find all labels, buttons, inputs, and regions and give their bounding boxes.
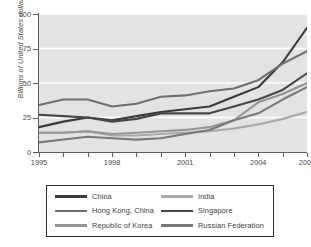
x-tick-label: 2004 xyxy=(250,158,266,167)
legend-color-swatch xyxy=(55,210,87,213)
legend-label: India xyxy=(198,192,215,201)
legend-color-swatch xyxy=(55,195,87,198)
legend-item[interactable]: Singapore xyxy=(161,204,267,219)
legend-label: Singapore xyxy=(198,206,233,215)
x-tick-mark xyxy=(234,153,235,157)
y-tick-label: 25 xyxy=(3,113,31,122)
legend-item[interactable]: Russian Federation xyxy=(161,218,267,233)
plot-area xyxy=(39,14,307,152)
y-tick-label: 75 xyxy=(3,44,31,53)
x-tick-mark xyxy=(39,153,40,157)
x-tick-mark xyxy=(185,153,186,157)
x-tick-label: 1995 xyxy=(31,158,47,167)
line-chart: Billions of United States dollars 025507… xyxy=(0,0,311,178)
legend-item[interactable]: China xyxy=(55,189,161,204)
series-canvas xyxy=(39,14,307,152)
x-tick-mark xyxy=(63,153,64,157)
x-tick-mark xyxy=(283,153,284,157)
y-tick-label: 100 xyxy=(3,10,31,19)
legend: ChinaIndiaHong Kong, ChinaSingaporeRepub… xyxy=(46,185,274,237)
x-tick-mark xyxy=(112,153,113,157)
x-tick-mark xyxy=(136,153,137,157)
series-line xyxy=(39,73,307,121)
x-tick-label: 1998 xyxy=(104,158,120,167)
legend-item[interactable]: Republic of Korea xyxy=(55,218,161,233)
series-line xyxy=(39,28,307,127)
legend-color-swatch xyxy=(161,195,193,198)
legend-label: Republic of Korea xyxy=(92,221,152,230)
x-tick-mark xyxy=(210,153,211,157)
y-axis-line xyxy=(38,13,39,153)
x-tick-mark xyxy=(161,153,162,157)
y-tick-label: 0 xyxy=(3,148,31,157)
x-tick-label: 2006 xyxy=(299,158,311,167)
legend-color-swatch xyxy=(55,224,87,227)
x-tick-mark xyxy=(88,153,89,157)
x-tick-label: 2001 xyxy=(177,158,193,167)
y-axis-ticks: 0255075100 xyxy=(0,0,39,170)
legend-color-swatch xyxy=(161,210,193,213)
legend-color-swatch xyxy=(161,224,193,227)
x-tick-mark xyxy=(258,153,259,157)
legend-label: Hong Kong, China xyxy=(92,206,154,215)
legend-item[interactable]: Hong Kong, China xyxy=(55,204,161,219)
legend-label: Russian Federation xyxy=(198,221,264,230)
legend-label: China xyxy=(92,192,112,201)
x-tick-mark xyxy=(307,153,308,157)
y-tick-label: 50 xyxy=(3,79,31,88)
legend-grid: ChinaIndiaHong Kong, ChinaSingaporeRepub… xyxy=(47,186,273,236)
chart-screenshot: Billions of United States dollars 025507… xyxy=(0,0,311,247)
x-axis-line xyxy=(38,152,307,153)
legend-item[interactable]: India xyxy=(161,189,267,204)
